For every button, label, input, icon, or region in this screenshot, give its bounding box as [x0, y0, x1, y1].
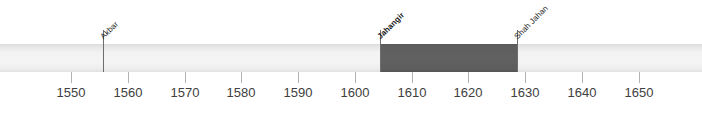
reign-band	[0, 44, 702, 72]
axis-tick-label: 1630	[511, 85, 540, 100]
axis-tick-label: 1570	[171, 85, 200, 100]
axis-tick	[468, 72, 469, 83]
timeline-chart: Akbar Jahangir Shah Jahan 1550 1560 1570…	[0, 0, 702, 116]
axis-tick-label: 1590	[284, 85, 313, 100]
axis-tick	[71, 72, 72, 83]
axis-tick-label: 1640	[568, 85, 597, 100]
axis-tick	[355, 72, 356, 83]
time-axis: 1550 1560 1570 1580 1590 1600 1610 1620 …	[0, 72, 702, 116]
axis-tick	[582, 72, 583, 83]
reign-label-jahangir: Jahangir	[376, 10, 407, 41]
reign-segment-akbar[interactable]	[0, 44, 380, 72]
axis-tick-label: 1600	[341, 85, 370, 100]
axis-tick	[412, 72, 413, 83]
axis-tick-label: 1650	[625, 85, 654, 100]
axis-tick-label: 1610	[398, 85, 427, 100]
axis-tick-label: 1580	[227, 85, 256, 100]
axis-tick	[128, 72, 129, 83]
axis-tick	[185, 72, 186, 83]
axis-tick-label: 1620	[454, 85, 483, 100]
axis-tick	[525, 72, 526, 83]
reign-segment-jahangir[interactable]	[380, 44, 517, 72]
axis-tick	[241, 72, 242, 83]
reign-segment-shah-jahan[interactable]	[517, 44, 702, 72]
axis-tick-label: 1560	[114, 85, 143, 100]
reign-label-akbar: Akbar	[99, 19, 121, 41]
reign-label-shah-jahan: Shah Jahan	[513, 4, 550, 41]
axis-tick	[639, 72, 640, 83]
axis-tick	[298, 72, 299, 83]
axis-tick-label: 1550	[57, 85, 86, 100]
